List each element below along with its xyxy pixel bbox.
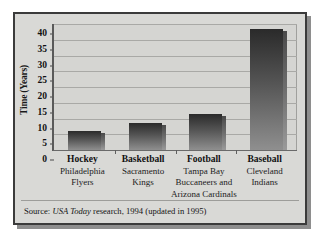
category-team-label: Cleveland: [230, 166, 299, 178]
y-axis-tick-label: 40: [38, 29, 48, 39]
y-axis-tick-label: 35: [38, 45, 48, 55]
source-divider: [21, 200, 299, 201]
category-label-group: BaseballClevelandIndians: [230, 154, 299, 189]
category-sport-label: Football: [170, 154, 239, 166]
y-axis-tick-label: 25: [38, 77, 48, 87]
chart-figure: Time (Years) 0510152025303540 HockeyPhil…: [13, 12, 307, 225]
category-label-group: HockeyPhiladelphiaFlyers: [48, 154, 117, 189]
gridline: [54, 24, 297, 25]
y-axis-tick-label: 10: [38, 124, 48, 134]
bar: [189, 114, 222, 150]
y-axis-tick-label: 20: [38, 92, 48, 102]
y-axis-tick-label: 0: [42, 155, 47, 165]
category-label-group: BasketballSacramentoKings: [109, 154, 178, 189]
category-sport-label: Hockey: [48, 154, 117, 166]
category-team-label: Tampa Bay: [170, 166, 239, 178]
chart-plot-wrapper: Time (Years) 0510152025303540 HockeyPhil…: [15, 14, 305, 223]
category-team-label: Buccaneers and: [170, 177, 239, 189]
y-axis-tick-label: 30: [38, 61, 48, 71]
y-axis-tick-labels: 0510152025303540: [30, 24, 50, 150]
category-team-label: Indians: [230, 177, 299, 189]
bar-side-face: [162, 125, 166, 150]
category-sport-label: Baseball: [230, 154, 299, 166]
source-note: Source: USA Today research, 1994 (update…: [24, 206, 206, 216]
bar: [129, 123, 162, 150]
source-rest: research, 1994 (updated in 1995): [93, 206, 206, 216]
y-axis-title: Time (Years): [17, 32, 31, 147]
x-axis-category-labels: HockeyPhiladelphiaFlyersBasketballSacram…: [52, 154, 297, 200]
category-team-label: Flyers: [48, 177, 117, 189]
bar-side-face: [101, 133, 105, 150]
category-team-label: Kings: [109, 177, 178, 189]
source-publication: USA Today: [52, 206, 90, 216]
y-axis-tick-label: 15: [38, 108, 48, 118]
category-label-group: FootballTampa BayBuccaneers andArizona C…: [170, 154, 239, 200]
category-team-label: Arizona Cardinals: [170, 189, 239, 201]
bar: [68, 131, 101, 150]
bar: [250, 29, 283, 150]
source-prefix: Source:: [24, 206, 50, 216]
y-axis-tick-label: 5: [42, 140, 47, 150]
category-sport-label: Basketball: [109, 154, 178, 166]
plot-area: [52, 24, 297, 151]
category-team-label: Sacramento: [109, 166, 178, 178]
category-team-label: Philadelphia: [48, 166, 117, 178]
y-axis-title-text: Time (Years): [19, 65, 29, 115]
bar-side-face: [283, 31, 287, 150]
bar-side-face: [222, 116, 226, 150]
